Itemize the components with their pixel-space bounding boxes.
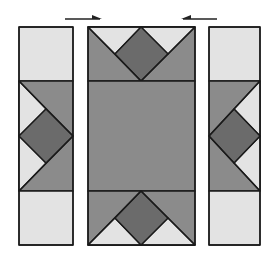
- right-strip: [209, 27, 260, 245]
- center-field: [88, 81, 195, 191]
- left-arrow: [65, 15, 102, 19]
- left-strip-top-square: [19, 27, 73, 81]
- left-strip: [19, 27, 73, 245]
- quilt-diagram: [0, 0, 270, 255]
- right-strip-bottom-square: [209, 191, 260, 245]
- left-strip-bottom-square: [19, 191, 73, 245]
- arrowhead-left-icon: [181, 15, 191, 19]
- right-arrow: [181, 15, 217, 19]
- center-block: [88, 27, 195, 245]
- arrowhead-right-icon: [92, 15, 102, 19]
- right-strip-top-square: [209, 27, 260, 81]
